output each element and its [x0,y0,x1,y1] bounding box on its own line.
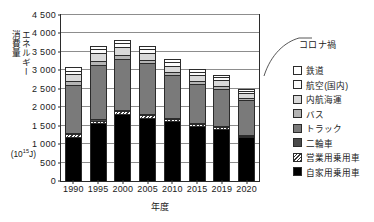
y-tick-label-1000: 1 000 [32,139,56,149]
legend-item-自家用乗用車[interactable]: 自家用乗用車 [293,166,373,179]
legend-item-二輪車[interactable]: 二輪車 [293,137,373,150]
bar-segment-truck-2020 [238,100,255,135]
y-tick-label-500: 500 [40,158,56,168]
bar-2019[interactable] [213,75,230,181]
legend-item-鉄道[interactable]: 鉄道 [293,64,373,77]
bar-segment-truck-2005 [139,63,156,114]
bar-segment-truck-2010 [164,75,181,118]
x-tick-label-2019: 2019 [211,184,232,194]
legend-item-営業用乗用車[interactable]: 営業用乗用車 [293,151,373,164]
bar-segment-truck-1995 [90,65,107,119]
y-tick-label-3000: 3 000 [32,65,56,75]
bar-segment-truck-1990 [65,85,82,133]
y-tick-label-0: 0 [51,176,56,186]
plot-area [60,14,260,182]
x-tick-label-2005: 2005 [137,184,158,194]
y-tick-label-4000: 4 000 [32,28,56,38]
bar-segment-truck-2000 [114,59,131,111]
x-tick-label-2000: 2000 [112,184,133,194]
bar-segment-naiko-1995 [90,53,107,61]
legend-label: 鉄道 [306,64,324,76]
legend-label: 内航海運 [306,93,342,105]
bar-segment-jika-2019 [213,129,230,181]
x-tick-1990 [73,180,74,184]
bar-segment-jika-2010 [164,121,181,181]
bar-2020[interactable] [238,89,255,181]
bar-2015[interactable] [189,69,206,181]
x-tick-label-1990: 1990 [63,184,84,194]
legend-swatch-icon [293,138,302,147]
y-tick-label-2000: 2 000 [32,102,56,112]
x-tick-2015 [197,180,198,184]
legend-label: 航空(国内) [306,79,348,91]
bar-2000[interactable] [114,40,131,181]
bar-group [61,15,259,181]
bar-segment-naiko-1990 [65,74,82,81]
legend: 鉄道航空(国内)内航海運バストラック二輪車営業用乗用車自家用乗用車 [293,64,373,178]
x-tick-2000 [122,180,123,184]
bar-segment-jika-2020 [238,137,255,181]
bar-segment-truck-2019 [213,89,230,126]
bar-1995[interactable] [90,46,107,181]
bar-segment-jika-2005 [139,118,156,181]
x-tick-1995 [98,180,99,184]
x-tick-2020 [246,180,247,184]
bar-segment-jika-2000 [114,114,131,181]
legend-label: 二輪車 [306,137,333,149]
y-axis-labels: 05001 0001 5002 0002 5003 0003 5004 0004… [14,14,58,182]
legend-label: 自家用乗用車 [306,166,361,178]
x-tick-label-2015: 2015 [187,184,208,194]
bar-segment-naiko-2000 [114,47,131,55]
legend-swatch-icon [293,124,302,133]
legend-label: 営業用乗用車 [306,151,361,163]
x-tick-label-2020: 2020 [236,184,257,194]
x-axis-labels: 19901995200020052010201520192020 [60,184,260,198]
x-tick-2019 [221,180,222,184]
x-tick-2005 [147,180,148,184]
bar-segment-naiko-2005 [139,53,156,60]
bar-segment-jika-1995 [90,123,107,181]
bar-segment-jika-2015 [189,126,206,181]
bar-segment-jika-1990 [65,137,82,181]
legend-item-内航海運[interactable]: 内航海運 [293,93,373,106]
legend-swatch-icon [293,167,302,176]
bar-segment-truck-2015 [189,84,206,122]
legend-swatch-icon [293,109,302,118]
x-tick-2010 [172,180,173,184]
x-axis-title: 年度 [60,200,260,213]
bar-2010[interactable] [164,59,181,181]
legend-swatch-icon [293,95,302,104]
legend-item-航空(国内)[interactable]: 航空(国内) [293,79,373,92]
legend-item-バス[interactable]: バス [293,108,373,121]
x-tick-label-1995: 1995 [88,184,109,194]
y-tick-label-3500: 3 500 [32,47,56,57]
annotation-corona: コロナ禍 [299,38,337,51]
legend-swatch-icon [293,66,302,75]
bar-2005[interactable] [139,46,156,181]
chart-root: エネルギー 消費量 (1015J) 05001 0001 5002 0002 5… [0,0,374,222]
x-tick-label-2010: 2010 [162,184,183,194]
legend-label: トラック [306,122,342,134]
legend-swatch-icon [293,153,302,162]
y-tick-label-2500: 2 500 [32,84,56,94]
bar-1990[interactable] [65,67,82,181]
legend-item-トラック[interactable]: トラック [293,122,373,135]
legend-label: バス [306,108,324,120]
legend-swatch-icon [293,80,302,89]
y-tick-label-4500: 4 500 [32,10,56,20]
y-tick-label-1500: 1 500 [32,121,56,131]
